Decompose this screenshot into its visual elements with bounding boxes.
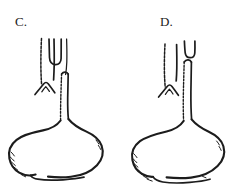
upper-esophageal-pouch-d <box>184 41 195 58</box>
stomach-outline-c <box>9 121 61 176</box>
stomach-greater-curve-c <box>48 119 103 177</box>
panel-c-anatomy-drawing <box>0 0 116 194</box>
lower-esophagus-right-wall-c <box>68 74 69 119</box>
stomach-shading-hatches-right-d <box>202 141 221 178</box>
figure-sheet: C. <box>0 0 232 194</box>
trachea-right-wall-d <box>176 45 177 82</box>
carina-inner-notch-d <box>165 89 173 94</box>
stomach-shading-hatches-c <box>10 152 25 177</box>
trachea-left-wall-d <box>164 44 165 87</box>
trachea-outer-right-wall-c <box>66 39 67 75</box>
lower-esophagus-left-wall-d <box>183 62 184 121</box>
lower-esophagus-right-wall-d <box>191 62 192 119</box>
lower-esophagus-top-cap-d <box>184 60 191 62</box>
upper-esophageal-pouch-c <box>49 39 61 65</box>
stomach-outline-d <box>132 121 184 177</box>
trachea-left-wall-c <box>41 39 42 85</box>
lower-esophagus-left-wall-c <box>61 74 62 121</box>
panel-c: C. <box>0 0 116 194</box>
trachea-right-wall-c <box>54 39 55 80</box>
carina-inner-notch-c <box>42 87 50 92</box>
lower-esophagus-top-cap-c <box>62 72 69 74</box>
panel-d: D. <box>116 0 232 194</box>
panel-d-anatomy-drawing <box>116 0 232 194</box>
